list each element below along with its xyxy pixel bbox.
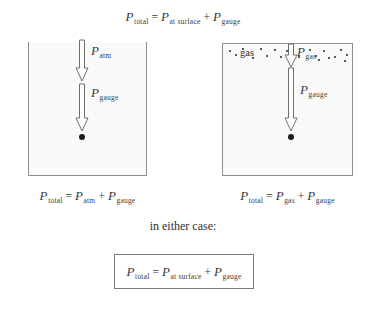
right-cap-equals: =	[263, 190, 276, 202]
right-caption-equation: Ptotal=Pgas+Pgauge	[222, 186, 353, 205]
boxed-result-equation: Ptotal=Pat surface+Pgauge	[114, 254, 254, 289]
left-atm-var: P	[91, 43, 99, 58]
gas-particle-dot	[266, 55, 268, 57]
right-cap-lhs-subscript: total	[248, 196, 263, 205]
right-arrow-label-gauge: Pgauge	[300, 80, 327, 99]
gas-particle-dot	[229, 50, 231, 52]
gas-particle-dot	[274, 49, 276, 51]
gas-particle-dot	[318, 59, 320, 61]
box-lhs-subscript: total	[135, 272, 150, 281]
left-gauge-var: P	[91, 85, 99, 100]
gas-particle-dot	[323, 50, 325, 52]
left-cap-term1-subscript: atm	[83, 196, 95, 205]
title-eq-term2: P	[213, 9, 221, 24]
box-equals: =	[149, 266, 162, 278]
gas-particle-dot	[280, 56, 282, 58]
gas-label: gas	[240, 47, 254, 58]
right-cap-term1: P	[276, 188, 284, 203]
gas-particle-dot	[346, 54, 348, 56]
left-cap-plus: +	[95, 190, 108, 202]
title-equation: Ptotal=Pat surface+Pgauge	[0, 7, 366, 26]
right-gauge-var: P	[300, 82, 308, 97]
right-gauge-subscript: gauge	[308, 90, 327, 99]
left-cap-lhs-subscript: total	[48, 196, 63, 205]
down-arrow-icon	[75, 84, 89, 132]
right-cap-term1-subscript: gas	[284, 196, 295, 205]
box-lhs: P	[127, 264, 135, 279]
left-atm-subscript: atm	[99, 51, 111, 60]
gas-particle-dot	[328, 57, 330, 59]
box-plus: +	[201, 266, 214, 278]
box-term1-subscript: at surface	[170, 272, 201, 281]
down-arrow-icon	[284, 44, 298, 68]
title-eq-equals: =	[148, 11, 161, 23]
right-cap-plus: +	[295, 190, 308, 202]
measurement-point-dot	[288, 134, 294, 140]
down-arrow-icon	[284, 68, 298, 132]
box-term2-subscript: gauge	[222, 272, 241, 281]
title-eq-lhs: P	[126, 9, 134, 24]
gas-particle-dot	[260, 48, 262, 50]
summary-heading: in either case:	[0, 219, 366, 234]
down-arrow-icon	[75, 40, 89, 82]
left-gauge-subscript: gauge	[99, 93, 118, 102]
box-term2: P	[214, 264, 222, 279]
left-cap-term1: P	[75, 188, 83, 203]
right-gas-var: P	[297, 44, 305, 59]
left-caption-equation: Ptotal=Patm+Pgauge	[28, 186, 147, 205]
title-eq-lhs-subscript: total	[134, 17, 149, 26]
title-eq-term1-subscript: at surface	[169, 17, 200, 26]
gas-particle-dot	[344, 60, 346, 62]
left-cap-term2: P	[108, 188, 116, 203]
gas-particle-dot	[340, 49, 342, 51]
left-arrow-label-gauge: Pgauge	[91, 83, 118, 102]
left-cap-term2-subscript: gauge	[116, 196, 135, 205]
left-cap-equals: =	[63, 190, 76, 202]
right-cap-term2-subscript: gauge	[315, 196, 334, 205]
box-term1: P	[162, 264, 170, 279]
right-gas-subscript: gas	[305, 52, 316, 61]
right-arrow-label-gas: Pgas	[297, 42, 316, 61]
title-eq-term1: P	[161, 9, 169, 24]
left-cap-lhs: P	[40, 188, 48, 203]
gas-particle-dot	[235, 54, 237, 56]
left-arrow-label-atm: Patm	[91, 41, 111, 60]
gas-particle-dot	[334, 56, 336, 58]
title-eq-term2-subscript: gauge	[221, 17, 240, 26]
title-eq-plus: +	[200, 11, 213, 23]
measurement-point-dot	[79, 134, 85, 140]
